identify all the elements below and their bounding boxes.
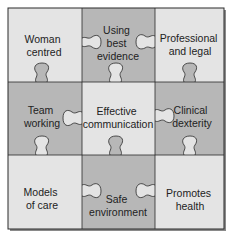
puzzle-diagram: Woman centred Using best evidence Profes… xyxy=(0,0,232,241)
knob-professional-to-evidence xyxy=(136,35,155,49)
label-professional-and-legal: Professional and legal xyxy=(160,32,221,57)
puzzle-svg: Woman centred Using best evidence Profes… xyxy=(0,0,232,241)
knob-models-to-team xyxy=(35,136,49,155)
label-models-of-care: Models of care xyxy=(24,186,61,211)
knob-woman-to-evidence xyxy=(82,35,101,48)
knob-safe-to-communication xyxy=(109,136,123,155)
knob-team-to-woman xyxy=(35,63,49,82)
label-clinical-dexterity: Clinical dexterity xyxy=(172,104,212,129)
knob-health-to-safe xyxy=(136,184,155,198)
knob-dexterity-to-professional xyxy=(183,63,197,82)
knob-communication-to-dexterity xyxy=(155,109,174,123)
knob-communication-to-evidence xyxy=(109,63,123,82)
knob-health-to-dexterity xyxy=(183,136,197,155)
label-woman-centred: Woman centred xyxy=(25,33,64,58)
knob-models-to-safe xyxy=(82,184,101,198)
knob-communication-to-team xyxy=(63,110,82,125)
label-team-working: Team working xyxy=(23,104,60,129)
